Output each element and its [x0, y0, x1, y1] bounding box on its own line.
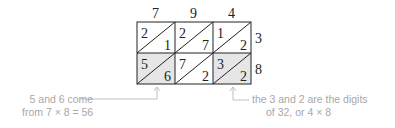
cell-upper: 5	[141, 57, 148, 72]
right-annotation: the 3 and 2 are the digits of 32, or 4 ×…	[252, 93, 368, 119]
right-annotation-line2: of 32, or 4 × 8	[252, 106, 368, 119]
left-annotation-line2: from 7 × 8 = 56	[8, 106, 93, 119]
cell-lower: 2	[240, 38, 247, 53]
cell-upper: 7	[179, 57, 186, 72]
side-digit: 3	[255, 31, 262, 46]
left-annotation: 5 and 6 come from 7 × 8 = 56	[8, 93, 93, 119]
left-annotation-line1: 5 and 6 come	[8, 93, 93, 106]
cell-upper: 2	[179, 26, 186, 41]
top-digit: 7	[152, 6, 159, 21]
cell-upper: 3	[217, 57, 224, 72]
side-digit: 8	[255, 62, 262, 77]
leader-lines	[80, 87, 249, 100]
cell-lower: 7	[202, 38, 209, 53]
cell-lower: 2	[240, 69, 247, 84]
top-digit: 4	[228, 6, 235, 21]
cell-upper: 1	[217, 26, 224, 41]
right-annotation-line1: the 3 and 2 are the digits	[252, 93, 368, 106]
cell-upper: 2	[141, 26, 148, 41]
cell-lower: 2	[202, 69, 209, 84]
cell-lower: 1	[164, 38, 171, 53]
cell-lower: 6	[164, 69, 171, 84]
top-digit: 9	[190, 6, 197, 21]
